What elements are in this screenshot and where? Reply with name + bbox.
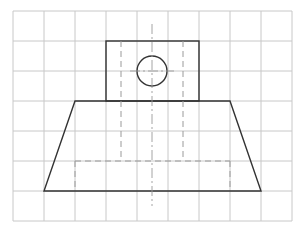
background: [0, 0, 302, 229]
technical-drawing: [0, 0, 302, 229]
